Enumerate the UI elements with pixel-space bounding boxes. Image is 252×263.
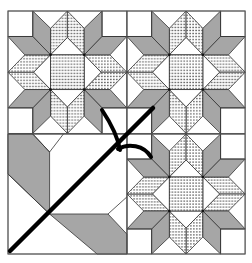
- star-block-top-left: [8, 11, 127, 133]
- quilt-illustration: [0, 0, 252, 263]
